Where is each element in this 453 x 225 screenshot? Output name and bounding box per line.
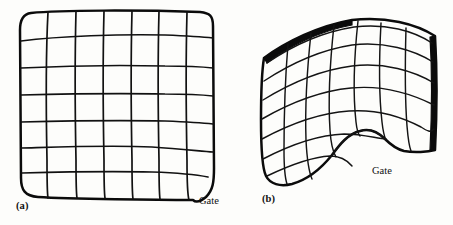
panel-b-vline-5 bbox=[380, 23, 386, 140]
panel-b-caption: (b) bbox=[262, 193, 275, 204]
panel-b-vline-6 bbox=[405, 28, 411, 151]
panel-b-hline-4 bbox=[262, 87, 434, 119]
panel-b-gate-label: Gate bbox=[372, 165, 392, 176]
panel-b-vline-4 bbox=[354, 21, 360, 136]
figure-drawing bbox=[0, 0, 453, 225]
panel-a-hline-4 bbox=[21, 121, 213, 124]
panel-a-vline-6 bbox=[186, 12, 189, 200]
panel-a-vline-5 bbox=[158, 11, 160, 199]
panel-a-hline-3 bbox=[21, 94, 213, 96]
panel-a-hline-2 bbox=[21, 66, 213, 68]
panel-a-vline-3 bbox=[103, 11, 105, 198]
figure-container: (a) Gate (b) Gate bbox=[0, 0, 453, 225]
panel-a-vline-2 bbox=[75, 11, 77, 198]
panel-a-grid bbox=[20, 11, 214, 202]
panel-b-hline-6 bbox=[263, 134, 386, 159]
panel-a-hline-5 bbox=[21, 146, 213, 152]
panel-a-vline-4 bbox=[131, 11, 133, 199]
panel-a-gate-label: Gate bbox=[199, 195, 219, 206]
panel-a-vline-1 bbox=[46, 12, 48, 198]
panel-a-hline-6 bbox=[22, 172, 208, 177]
panel-b-vline-2 bbox=[306, 33, 312, 179]
panel-a-caption: (a) bbox=[16, 200, 29, 211]
panel-a-hline-1 bbox=[21, 35, 213, 41]
panel-b-grid bbox=[261, 19, 437, 185]
panel-b-vline-1 bbox=[284, 44, 288, 184]
